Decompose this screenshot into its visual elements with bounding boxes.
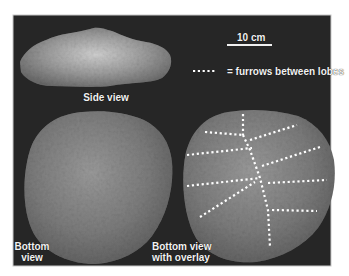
bottom-overlay-label-line-2: with overlay (152, 252, 211, 263)
specimen-figure: 10 cm = furrows between lobes Side view … (0, 0, 349, 276)
scale-bar-label: 10 cm (237, 32, 265, 43)
scale-bar (227, 44, 272, 46)
side-view-label-line: Side view (83, 92, 129, 103)
bottom-view-label-line-2: view (14, 252, 50, 263)
bottom-overlay-label-line-1: Bottom view (152, 241, 211, 252)
side-view-label: Side view (78, 92, 134, 103)
bottom-view-label-line-1: Bottom (14, 241, 50, 252)
figure-canvas (0, 0, 349, 276)
legend-text: = furrows between lobes (227, 66, 344, 77)
bottom-view-label: Bottom view (14, 241, 50, 263)
bottom-overlay-label: Bottom view with overlay (152, 241, 211, 263)
